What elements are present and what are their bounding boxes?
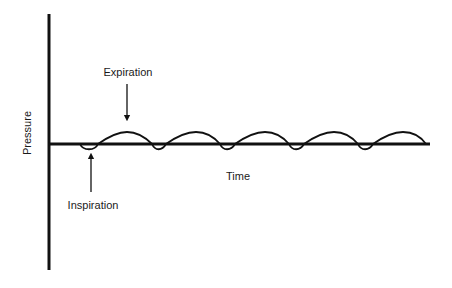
pressure-waveform [80, 132, 426, 149]
pressure-time-diagram: Expiration Inspiration Time Pressure [0, 0, 452, 288]
expiration-label: Expiration [104, 66, 153, 78]
y-axis-label: Pressure [21, 111, 33, 155]
inspiration-label: Inspiration [68, 199, 119, 211]
x-axis-label: Time [226, 170, 250, 182]
